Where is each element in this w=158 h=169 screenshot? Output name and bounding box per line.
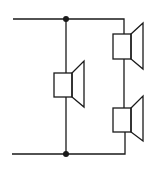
junction-bottom-dot — [63, 151, 69, 157]
wire-bottom-rail — [12, 132, 125, 154]
junction-top-dot — [63, 16, 69, 22]
speaker-center-icon — [54, 61, 84, 107]
circuit-canvas — [0, 0, 158, 169]
speaker-circuit-diagram — [0, 0, 158, 169]
speaker-top-right-icon — [113, 23, 143, 69]
speaker-bottom-right-icon — [113, 96, 143, 141]
wire-top-rail — [13, 19, 124, 34]
